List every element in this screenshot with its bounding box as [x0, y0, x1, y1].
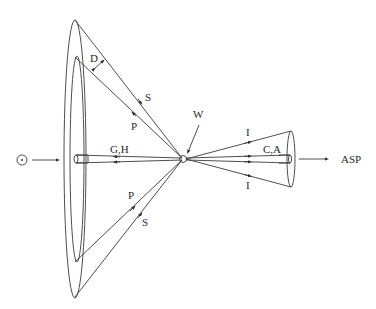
ca-line-bottom	[186, 160, 290, 163]
label-s-bottom: S	[142, 216, 148, 228]
right-cylinder	[279, 155, 292, 163]
s-line-bottom	[75, 160, 182, 297]
label-p-top: P	[131, 120, 137, 132]
label-i-bottom: I	[246, 179, 250, 191]
w-point	[180, 156, 187, 163]
label-asp: ASP	[341, 153, 361, 165]
i-bottom-arrow	[244, 175, 250, 177]
label-gh: G,H	[110, 143, 129, 155]
label-s-top: S	[145, 91, 151, 103]
label-d: D	[90, 52, 98, 64]
i-top-arrow	[244, 142, 250, 144]
p-line-bottom	[75, 160, 182, 262]
inner-ellipse	[70, 56, 84, 262]
label-w: W	[193, 108, 204, 120]
gh-line-bottom	[76, 160, 182, 163]
s-line-top	[75, 20, 182, 158]
sun-icon	[17, 155, 27, 165]
w-arrow	[188, 125, 199, 152]
ca-line-top	[186, 155, 290, 158]
geometry-diagram: D S P W I C,A G,H ASP I P S	[0, 0, 376, 309]
label-ca: C,A	[263, 143, 281, 155]
outer-ellipse	[64, 20, 86, 298]
label-i-top: I	[246, 126, 250, 138]
label-p-bottom: P	[128, 189, 134, 201]
gh-line-top	[76, 155, 182, 158]
i-line-bottom	[186, 159, 291, 187]
